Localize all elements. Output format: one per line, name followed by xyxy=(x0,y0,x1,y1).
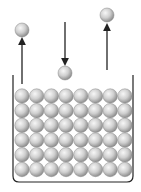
liquid-particle xyxy=(59,162,73,176)
liquid-particle xyxy=(74,89,88,103)
liquid-particle xyxy=(44,104,58,118)
liquid-particle xyxy=(59,118,73,132)
liquid-particle xyxy=(118,133,132,147)
escaping-particle-left-group xyxy=(15,23,29,84)
liquid-particle xyxy=(15,133,29,147)
liquid-particle xyxy=(103,148,117,162)
liquid-particle xyxy=(15,162,29,176)
liquid-particle xyxy=(88,89,102,103)
liquid-particle xyxy=(15,118,29,132)
liquid-particle xyxy=(88,118,102,132)
liquid-particle xyxy=(30,133,44,147)
liquid-particles xyxy=(15,89,132,177)
escaping-particle-left xyxy=(15,23,29,37)
escaping-particle-right xyxy=(100,8,114,22)
liquid-particle xyxy=(103,89,117,103)
liquid-particle xyxy=(88,162,102,176)
liquid-particle xyxy=(103,133,117,147)
liquid-particle xyxy=(15,104,29,118)
liquid-particle xyxy=(15,148,29,162)
liquid-particle xyxy=(118,162,132,176)
liquid-particle xyxy=(88,148,102,162)
liquid-particle xyxy=(118,118,132,132)
liquid-particle xyxy=(44,148,58,162)
liquid-particle xyxy=(118,89,132,103)
diagram-canvas xyxy=(0,0,141,192)
escaping-particle-right-group xyxy=(100,8,114,70)
liquid-particle xyxy=(30,89,44,103)
liquid-particle xyxy=(74,118,88,132)
liquid-particle xyxy=(30,118,44,132)
liquid-particle xyxy=(44,118,58,132)
liquid-particle xyxy=(44,89,58,103)
liquid-particle xyxy=(74,162,88,176)
liquid-particle xyxy=(30,148,44,162)
liquid-particle xyxy=(118,148,132,162)
returning-particle-middle xyxy=(58,66,72,80)
liquid-particle xyxy=(30,162,44,176)
liquid-particle xyxy=(74,104,88,118)
liquid-particle xyxy=(88,133,102,147)
liquid-particle xyxy=(74,133,88,147)
returning-particle-middle-group xyxy=(58,22,72,80)
liquid-particle xyxy=(15,89,29,103)
liquid-particle xyxy=(118,104,132,118)
liquid-particle xyxy=(59,89,73,103)
liquid-particle xyxy=(103,162,117,176)
liquid-particle xyxy=(30,104,44,118)
liquid-particle xyxy=(44,133,58,147)
liquid-particle xyxy=(44,162,58,176)
liquid-particle xyxy=(59,104,73,118)
liquid-particle xyxy=(59,148,73,162)
liquid-particle xyxy=(59,133,73,147)
liquid-particle xyxy=(88,104,102,118)
liquid-particle xyxy=(74,148,88,162)
liquid-particle xyxy=(103,118,117,132)
liquid-particle xyxy=(103,104,117,118)
